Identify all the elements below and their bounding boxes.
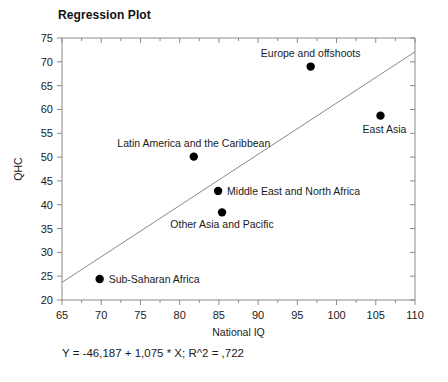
data-point [190,152,198,160]
data-point-label: Other Asia and Pacific [170,218,273,230]
data-point-label: Europe and offshoots [261,47,361,59]
y-tick-label: 65 [41,80,53,92]
y-tick-label: 55 [41,127,53,139]
regression-plot-figure: Regression Plot 657075808590951001051102… [0,0,448,382]
y-tick-label: 40 [41,199,53,211]
x-tick-label: 70 [95,309,107,321]
data-point [95,275,103,283]
y-tick-label: 30 [41,246,53,258]
point-labels-group: Europe and offshootsEast AsiaLatin Ameri… [109,47,407,285]
y-tick-label: 70 [41,56,53,68]
x-tick-label: 75 [134,309,146,321]
x-tick-label: 95 [291,309,303,321]
x-axis-title: National IQ [212,326,265,338]
data-point [306,62,314,70]
y-tick-label: 75 [41,32,53,44]
y-tick-label: 25 [41,270,53,282]
data-point-label: Latin America and the Caribbean [117,137,270,149]
regression-equation: Y = -46,187 + 1,075 * X; R^2 = ,722 [62,347,244,359]
data-points-group [95,62,384,283]
regression-line [62,52,415,283]
x-tick-label: 110 [406,309,424,321]
y-tick-label: 35 [41,223,53,235]
data-point [376,111,384,119]
data-point-label: Middle East and North Africa [227,185,360,197]
x-tick-label: 105 [367,309,385,321]
data-point-label: Sub-Saharan Africa [109,273,200,285]
data-point-label: East Asia [363,123,407,135]
y-axis-title: QHC [12,157,24,181]
y-tick-label: 50 [41,151,53,163]
data-point [218,208,226,216]
plot-canvas: 6570758085909510010511020253035404550556… [0,0,448,382]
x-tick-label: 85 [213,309,225,321]
x-tick-label: 65 [56,309,68,321]
x-tick-label: 80 [174,309,186,321]
data-point [214,187,222,195]
y-tick-label: 45 [41,175,53,187]
y-tick-label: 20 [41,294,53,306]
x-tick-label: 90 [252,309,264,321]
fit-line [62,52,415,283]
x-tick-label: 100 [327,309,345,321]
y-tick-label: 60 [41,103,53,115]
